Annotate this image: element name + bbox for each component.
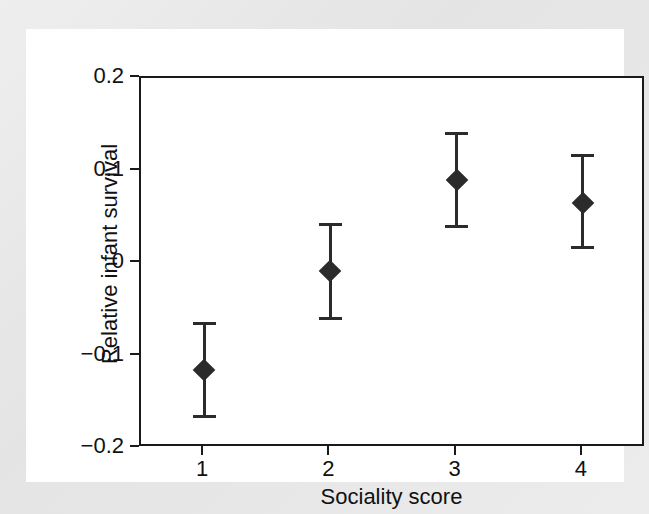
x-tick-label-wrap: 3: [425, 458, 485, 480]
error-bar-cap-lower: [193, 415, 216, 418]
y-tick-label: 0: [112, 250, 124, 272]
plot-area: [139, 76, 644, 446]
y-tick-label: −0.1: [81, 343, 124, 365]
error-bar-cap-lower: [319, 317, 342, 320]
y-tick-label-wrap: −0.1: [26, 343, 124, 365]
data-point-marker[interactable]: [193, 359, 216, 382]
x-tick-label-wrap: 4: [551, 458, 611, 480]
x-tick-label: 2: [322, 456, 334, 481]
data-point-marker[interactable]: [572, 192, 595, 215]
error-bar-cap-upper: [319, 223, 342, 226]
x-axis-title: Sociality score: [139, 484, 644, 510]
x-tick-label-wrap: 2: [298, 458, 358, 480]
error-bar-cap-upper: [193, 322, 216, 325]
y-tick-label-wrap: 0: [26, 250, 124, 272]
y-tick-mark: [130, 353, 139, 355]
x-tick-label-wrap: 1: [172, 458, 232, 480]
error-bar-cap-lower: [571, 246, 594, 249]
x-tick-label: 4: [575, 456, 587, 481]
y-tick-label: 0.1: [93, 158, 124, 180]
y-tick-mark: [130, 260, 139, 262]
y-tick-mark: [130, 75, 139, 77]
y-tick-label-wrap: 0.2: [26, 65, 124, 87]
data-point-group[interactable]: [563, 78, 603, 444]
x-tick-label: 3: [449, 456, 461, 481]
error-bar-cap-lower: [445, 225, 468, 228]
x-tick-mark: [454, 446, 456, 455]
error-bar-cap-upper: [571, 154, 594, 157]
data-point-group[interactable]: [310, 78, 350, 444]
x-tick-mark: [201, 446, 203, 455]
x-tick-label: 1: [196, 456, 208, 481]
x-tick-mark: [327, 446, 329, 455]
y-tick-label: 0.2: [93, 65, 124, 87]
y-tick-label: −0.2: [81, 435, 124, 457]
figure-root: Relative infant survival 0.20.10−0.1−0.2…: [0, 0, 649, 514]
figure-canvas: Relative infant survival 0.20.10−0.1−0.2…: [26, 29, 624, 482]
error-bar-cap-upper: [445, 132, 468, 135]
data-point-group[interactable]: [184, 78, 224, 444]
y-tick-mark: [130, 168, 139, 170]
data-point-group[interactable]: [437, 78, 477, 444]
x-tick-mark: [580, 446, 582, 455]
data-point-marker[interactable]: [319, 260, 342, 283]
data-point-marker[interactable]: [445, 168, 468, 191]
y-tick-mark: [130, 445, 139, 447]
y-tick-label-wrap: −0.2: [26, 435, 124, 457]
y-tick-label-wrap: 0.1: [26, 158, 124, 180]
